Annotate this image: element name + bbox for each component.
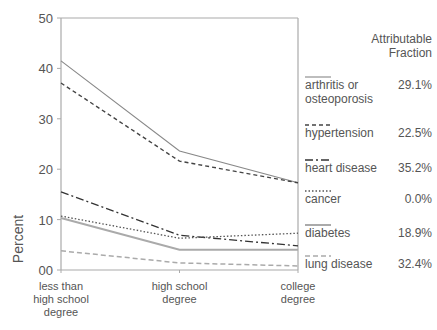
y-tick-label: 00	[39, 263, 53, 278]
legend-fraction: 0.0%	[405, 192, 433, 206]
y-tick-label: 30	[39, 112, 53, 127]
series-line-arthritis-or-osteoporosis	[61, 61, 298, 183]
x-tick-label-line: less than	[39, 280, 83, 292]
x-tick-label: high schooldegree	[152, 280, 208, 305]
x-tick-label: collegedegree	[281, 280, 316, 305]
y-tick-label: 10	[39, 213, 53, 228]
legend-label: heart disease	[305, 161, 377, 175]
legend-label: hypertension	[305, 126, 374, 140]
legend-label: osteoporosis	[305, 92, 373, 106]
legend-fraction: 32.4%	[398, 257, 432, 271]
legend-label: cancer	[305, 192, 341, 206]
x-tick-label-line: degree	[281, 293, 315, 305]
legend-fraction: 18.9%	[398, 226, 432, 240]
legend-fraction: 29.1%	[398, 78, 432, 92]
x-tick-label-line: high school	[152, 280, 208, 292]
x-tick-label-line: high school	[33, 293, 89, 305]
y-tick-label: 40	[39, 61, 53, 76]
legend-label: diabetes	[305, 226, 350, 240]
x-tick-label-line: college	[281, 280, 316, 292]
x-tick-label: less thanhigh schooldegree	[33, 280, 89, 318]
x-tick-label-line: degree	[162, 293, 196, 305]
y-tick-label: 20	[39, 162, 53, 177]
legend-title-line: Attributable	[371, 32, 432, 46]
x-tick-label-line: degree	[44, 306, 78, 318]
y-axis-title: Percent	[10, 215, 26, 263]
legend-title-line: Fraction	[389, 46, 432, 60]
legend-fraction: 22.5%	[398, 126, 432, 140]
series-line-lung-disease	[61, 251, 298, 266]
legend-fraction: 35.2%	[398, 161, 432, 175]
legend-label: lung disease	[305, 257, 373, 271]
series-line-hypertension	[61, 83, 298, 183]
y-tick-label: 50	[39, 11, 53, 26]
legend-label: arthritis or	[305, 78, 358, 92]
line-chart: 001020304050Percentless thanhigh schoold…	[0, 0, 437, 330]
